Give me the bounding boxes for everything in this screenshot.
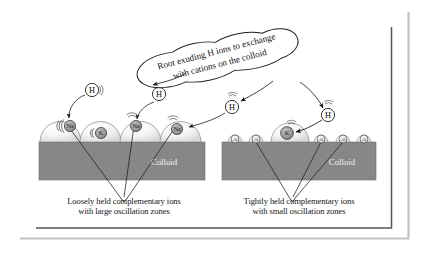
ion-al-right-3: Al — [317, 135, 325, 143]
cation-exchange-diagram: Colloid Na — [0, 0, 429, 264]
colloid-label-right: Colloid — [329, 157, 356, 167]
ion-label: K — [99, 129, 104, 136]
ion-label: Na — [173, 125, 180, 132]
h-ion-label: H — [325, 111, 331, 120]
ion-al-right-4: Al — [339, 135, 347, 143]
ion-label: Al — [233, 138, 237, 142]
caption-left: Loosely held complementary ions with lar… — [67, 196, 181, 216]
caption-right: Tightly held complementary ions with sma… — [244, 196, 356, 216]
ion-label: Al — [362, 138, 366, 142]
ion-label: Al — [319, 138, 323, 142]
ion-label: Na — [66, 122, 73, 129]
ion-al-right-1: Al — [231, 135, 239, 143]
caption-right-line1: Tightly held complementary ions — [244, 196, 356, 206]
ion-label: Al — [341, 138, 345, 142]
h-ion-label: H — [156, 90, 162, 99]
ion-al-right-5: Al — [360, 135, 368, 143]
caption-left-line2: with large oscillation zones — [78, 206, 170, 216]
caption-left-line1: Loosely held complementary ions — [67, 196, 181, 206]
ion-label: K — [285, 129, 290, 136]
h-ion-label: H — [229, 103, 235, 112]
colloid-label-left: Colloid — [151, 157, 178, 167]
caption-right-line2: with small oscillation zones — [253, 206, 347, 216]
ion-al-right-2: Al — [252, 135, 260, 143]
ion-label: Al — [254, 138, 258, 142]
colloid-block-left: Colloid — [39, 142, 205, 180]
ion-label: Na — [132, 122, 139, 129]
colloid-block-right: Colloid — [222, 142, 376, 180]
h-ion-label: H — [89, 86, 95, 95]
